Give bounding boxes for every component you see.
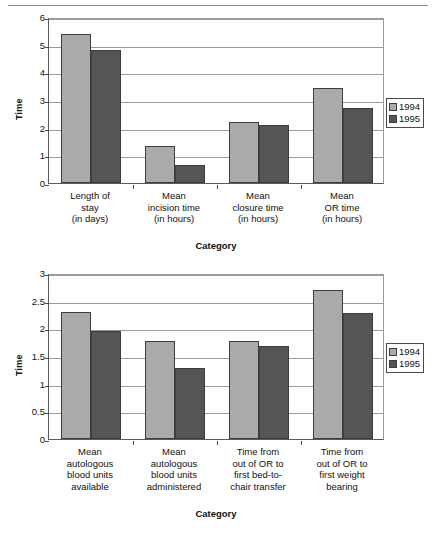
bar-1995-4 xyxy=(343,313,373,439)
x-category-label: Time from out of OR to first weight bear… xyxy=(300,446,384,504)
legend-item-1995: 1995 xyxy=(389,113,420,125)
y-tick-mark xyxy=(45,330,49,331)
y-tick-label: 3 xyxy=(40,96,45,106)
x-category-label: Mean OR time (in hours) xyxy=(300,190,384,236)
y-tick-mark xyxy=(45,185,49,186)
y-tick-mark xyxy=(45,303,49,304)
y-tick-mark xyxy=(45,413,49,414)
bar-1994-2 xyxy=(145,146,175,183)
chart-top: Time 0123456 Length of stay (in days)Mea… xyxy=(0,12,434,262)
bar-1994-2 xyxy=(145,341,175,439)
bar-1994-3 xyxy=(229,341,259,439)
chart-page: Time 0123456 Length of stay (in days)Mea… xyxy=(0,0,434,535)
x-axis-title: Category xyxy=(48,240,384,251)
y-tick-label: 2 xyxy=(40,124,45,134)
y-tick-mark xyxy=(45,157,49,158)
y-tick-mark xyxy=(45,441,49,442)
legend-swatch-icon xyxy=(389,103,397,111)
legend-swatch-icon xyxy=(389,360,397,368)
x-tick-mark xyxy=(217,185,218,189)
legend-label: 1995 xyxy=(399,114,420,124)
y-tick-mark xyxy=(45,130,49,131)
x-category-label: Mean autologous blood units administered xyxy=(132,446,216,504)
x-category-label: Time from out of OR to first bed-to- cha… xyxy=(216,446,300,504)
y-tick-mark xyxy=(45,19,49,20)
y-tick-label: 5 xyxy=(40,41,45,51)
y-tick-label: 1 xyxy=(40,151,45,161)
plot-area xyxy=(48,18,384,184)
x-category-label: Mean autologous blood units available xyxy=(48,446,132,504)
y-tick-mark xyxy=(45,47,49,48)
legend-label: 1994 xyxy=(399,102,420,112)
legend-label: 1994 xyxy=(399,347,420,357)
x-category-label: Length of stay (in days) xyxy=(48,190,132,236)
bar-1995-2 xyxy=(175,165,205,183)
y-tick-label: 2.5 xyxy=(32,297,45,307)
legend-swatch-icon xyxy=(389,348,397,356)
bar-1995-1 xyxy=(91,50,121,183)
chart-bottom: Time 00.511.522.53 Mean autologous blood… xyxy=(0,268,434,533)
x-tick-mark xyxy=(301,441,302,445)
y-axis-tick-labels: 0123456 xyxy=(23,18,45,184)
legend: 19941995 xyxy=(386,98,424,128)
y-tick-label: 3 xyxy=(40,269,45,279)
bar-1995-3 xyxy=(259,346,289,439)
legend-item-1994: 1994 xyxy=(389,346,420,358)
y-tick-mark xyxy=(45,102,49,103)
y-axis-tick-labels: 00.511.522.53 xyxy=(23,274,45,440)
y-tick-label: 0 xyxy=(40,435,45,445)
y-tick-label: 2 xyxy=(40,324,45,334)
y-tick-label: 1 xyxy=(40,380,45,390)
bar-1994-1 xyxy=(61,312,91,439)
gridline xyxy=(49,275,383,276)
y-tick-mark xyxy=(45,386,49,387)
y-tick-label: 4 xyxy=(40,68,45,78)
x-tick-mark xyxy=(133,441,134,445)
y-tick-label: 1.5 xyxy=(32,352,45,362)
x-tick-mark xyxy=(133,185,134,189)
legend: 19941995 xyxy=(386,343,424,373)
y-tick-mark xyxy=(45,358,49,359)
gridline xyxy=(49,19,383,20)
y-tick-label: 6 xyxy=(40,13,45,23)
legend-item-1995: 1995 xyxy=(389,358,420,370)
top-rule-divider xyxy=(8,5,428,6)
x-axis-title: Category xyxy=(48,508,384,519)
bar-1995-3 xyxy=(259,125,289,183)
bar-1995-1 xyxy=(91,331,121,439)
bar-1994-4 xyxy=(313,88,343,183)
bar-1995-2 xyxy=(175,368,205,439)
y-tick-mark xyxy=(45,74,49,75)
plot-area xyxy=(48,274,384,440)
legend-label: 1995 xyxy=(399,359,420,369)
x-tick-mark xyxy=(217,441,218,445)
bar-1995-4 xyxy=(343,108,373,183)
bar-1994-4 xyxy=(313,290,343,439)
y-tick-mark xyxy=(45,275,49,276)
y-tick-label: 0.5 xyxy=(32,407,45,417)
gridline xyxy=(49,47,383,48)
x-tick-mark xyxy=(301,185,302,189)
legend-item-1994: 1994 xyxy=(389,101,420,113)
y-tick-label: 0 xyxy=(40,179,45,189)
legend-swatch-icon xyxy=(389,115,397,123)
bar-1994-1 xyxy=(61,34,91,183)
x-category-label: Mean incision time (in hours) xyxy=(132,190,216,236)
bar-1994-3 xyxy=(229,122,259,183)
x-category-label: Mean closure time (in hours) xyxy=(216,190,300,236)
